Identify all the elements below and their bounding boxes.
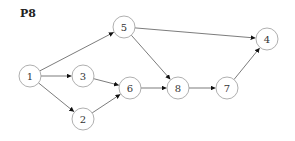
edge-5-to-8 bbox=[131, 35, 170, 79]
node-label: 4 bbox=[264, 34, 270, 45]
node-1: 1 bbox=[19, 65, 41, 87]
node-label: 5 bbox=[121, 22, 127, 33]
node-7: 7 bbox=[216, 77, 238, 99]
node-label: 1 bbox=[27, 71, 33, 82]
node-3: 3 bbox=[72, 65, 94, 87]
node-label: 3 bbox=[80, 71, 86, 82]
edge-3-to-6 bbox=[94, 79, 119, 86]
edge-7-to-4 bbox=[234, 48, 260, 80]
node-8: 8 bbox=[167, 77, 189, 99]
node-2: 2 bbox=[72, 108, 94, 130]
edge-1-to-5 bbox=[40, 32, 114, 71]
node-label: 8 bbox=[175, 83, 181, 94]
edge-1-to-2 bbox=[39, 83, 75, 112]
directed-graph: 15362874 bbox=[0, 0, 295, 141]
node-4: 4 bbox=[256, 28, 278, 50]
node-label: 2 bbox=[80, 114, 86, 125]
edges-group bbox=[39, 28, 260, 113]
node-6: 6 bbox=[119, 77, 141, 99]
edge-5-to-4 bbox=[135, 28, 256, 38]
node-5: 5 bbox=[113, 16, 135, 38]
node-label: 6 bbox=[127, 83, 133, 94]
node-label: 7 bbox=[224, 83, 230, 94]
edge-2-to-6 bbox=[92, 94, 120, 113]
